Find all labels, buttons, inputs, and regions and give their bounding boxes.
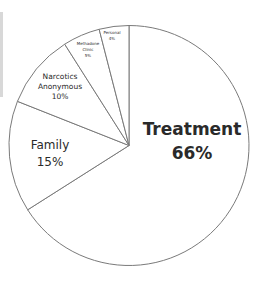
pie-chart: Treatment66%Family15%NarcoticsAnonymous1… (0, 0, 259, 285)
